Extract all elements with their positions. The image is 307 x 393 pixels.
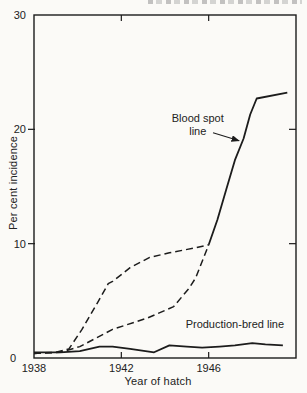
series-production-bred-line — [34, 343, 283, 352]
book-figure-page: 1938194219460102030Blood spotlineProduct… — [0, 0, 307, 393]
blood-spot-label-text: line — [189, 125, 206, 137]
series-blood-spot-dashed-upper — [34, 245, 209, 354]
x-axis-title: Year of hatch — [58, 375, 258, 387]
series-blood-spot-dashed-lower — [34, 245, 209, 354]
blood-spot-label-arrow — [213, 133, 239, 141]
x-tick-label-1942: 1942 — [109, 362, 133, 374]
y-axis-title: Per cent incidence — [7, 123, 19, 243]
production-bred-label-text: Production-bred line — [186, 318, 284, 330]
plot-frame — [34, 15, 296, 358]
incidence-chart: 1938194219460102030Blood spotlineProduct… — [0, 0, 307, 393]
y-tick-label-0: 0 — [10, 352, 16, 364]
y-tick-label-30: 30 — [14, 9, 26, 21]
x-tick-label-1938: 1938 — [22, 362, 46, 374]
cropped-page-header-artifact — [148, 0, 302, 4]
blood-spot-label-text: Blood spot — [172, 112, 224, 124]
x-tick-label-1946: 1946 — [196, 362, 220, 374]
